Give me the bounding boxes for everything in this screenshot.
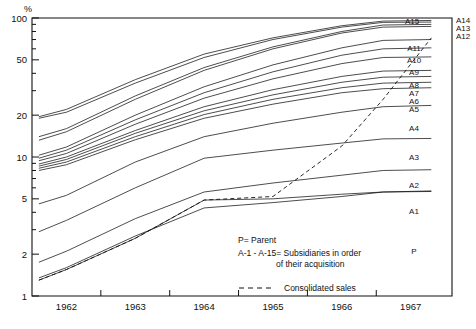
x-tick-label-1962: 1962 [56,301,77,312]
series-label-A2: A2 [409,181,419,190]
x-tick-label-1965: 1965 [262,301,283,312]
series-line-A2 [39,170,431,263]
series-line-A10 [39,48,431,158]
series-line-A6 [39,82,431,168]
chart-container: 125102050100 196219631964196519661967 A1… [0,0,476,329]
series-label-A12: A12 [456,32,471,41]
x-axis-tick-labels: 196219631964196519661967 [56,301,421,312]
series-label-A4: A4 [409,124,419,133]
series-line-P [39,191,431,280]
y-tick-label-20: 20 [16,110,27,121]
series-label-P: P [411,247,416,256]
y-tick-label-10: 10 [16,152,27,163]
series-line-A3 [39,138,431,231]
series-line-A15 [39,20,431,116]
x-tick-label-1966: 1966 [331,301,352,312]
series-label-A3: A3 [409,153,419,162]
y-axis-unit-label: % [24,4,32,14]
series-line-A11 [39,40,431,156]
series-label-A10: A10 [407,56,422,65]
x-tick-label-1963: 1963 [125,301,146,312]
consolidated-sales-line [39,38,431,280]
series-label-A5: A5 [409,105,419,114]
series-label-A15: A15 [405,17,420,26]
y-tick-label-100: 100 [11,13,27,24]
y-tick-label-5: 5 [22,193,27,204]
x-tick-label-1964: 1964 [194,301,215,312]
series-line-A13 [39,24,431,136]
series-line-A1 [39,191,431,278]
series-label-A9: A9 [409,68,419,77]
line-chart: 125102050100 196219631964196519661967 A1… [0,0,476,329]
y-axis-tick-labels: 125102050100 [11,13,27,302]
x-tick-label-1967: 1967 [400,301,421,312]
y-tick-label-1: 1 [22,291,27,302]
dashed-consolidated-sales-line [39,38,431,280]
y-tick-label-2: 2 [22,249,27,260]
y-tick-label-50: 50 [16,54,27,65]
series-line-A5 [39,88,431,171]
series-label-A1: A1 [409,207,419,216]
data-series-lines [39,20,431,280]
series-label-A11: A11 [407,44,421,53]
series-end-labels: A15A14A13A12A11A10A9A8A7A6A5A4A3A2A1P [405,16,471,256]
